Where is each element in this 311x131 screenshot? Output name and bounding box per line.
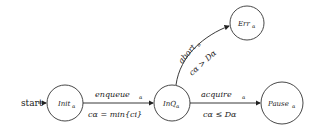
state-inq-label: InQ — [162, 100, 176, 108]
transition-enqueue-sub: α — [139, 94, 143, 100]
state-pause: Pause α — [261, 82, 303, 124]
transition-abort-action: abort — [177, 42, 198, 65]
state-err: Err α — [230, 6, 264, 40]
state-err-label: Err — [237, 20, 250, 28]
transition-enqueue-guard: cα = min{ci} — [88, 110, 142, 119]
transition-acquire-action: acquire — [201, 90, 232, 99]
transition-acquire-guard: cα ≤ Dα — [203, 110, 237, 119]
state-diagram: start Init α InQ α Err α Pause α enqueue… — [0, 0, 311, 131]
transition-acquire-sub: α — [242, 94, 246, 100]
state-init: Init α — [47, 85, 83, 121]
state-init-label: Init — [57, 100, 71, 108]
state-inq: InQ α — [154, 85, 190, 121]
transition-enqueue-action: enqueue — [95, 90, 130, 99]
state-pause-label: Pause — [267, 100, 289, 108]
